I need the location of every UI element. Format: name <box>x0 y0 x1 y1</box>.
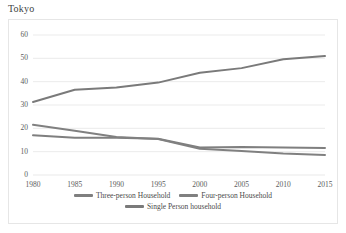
x-tick-label: 1990 <box>98 180 134 189</box>
y-tick-label: 50 <box>6 53 28 62</box>
y-tick-label: 60 <box>6 30 28 39</box>
x-tick-label: 2000 <box>182 180 218 189</box>
legend-label: Four-person Household <box>201 191 272 200</box>
y-tick-label: 30 <box>6 100 28 109</box>
legend-row: Single Person household <box>8 201 338 212</box>
legend-swatch-icon <box>179 194 198 197</box>
legend-item[interactable]: Three-person Household <box>74 191 170 200</box>
y-tick-label: 40 <box>6 77 28 86</box>
legend-label: Single Person household <box>147 202 221 211</box>
chart-legend: Three-person HouseholdFour-person Househ… <box>8 190 338 212</box>
page-title: Tokyo <box>8 3 34 14</box>
x-tick-label: 1985 <box>57 180 93 189</box>
y-tick-label: 10 <box>6 147 28 156</box>
y-tick-label: 0 <box>6 170 28 179</box>
legend-swatch-icon <box>125 205 144 208</box>
legend-swatch-icon <box>74 194 93 197</box>
y-tick-label: 20 <box>6 123 28 132</box>
x-tick-label: 1980 <box>15 180 51 189</box>
legend-item[interactable]: Four-person Household <box>179 191 272 200</box>
x-tick-label: 1995 <box>140 180 176 189</box>
x-tick-label: 2010 <box>265 180 301 189</box>
chart-screenshot: Tokyo 0102030405060 19801985199019952000… <box>0 0 346 233</box>
legend-item[interactable]: Single Person household <box>125 202 221 211</box>
x-tick-label: 2005 <box>224 180 260 189</box>
legend-row: Three-person HouseholdFour-person Househ… <box>8 190 338 201</box>
legend-label: Three-person Household <box>96 191 170 200</box>
x-tick-label: 2015 <box>307 180 343 189</box>
